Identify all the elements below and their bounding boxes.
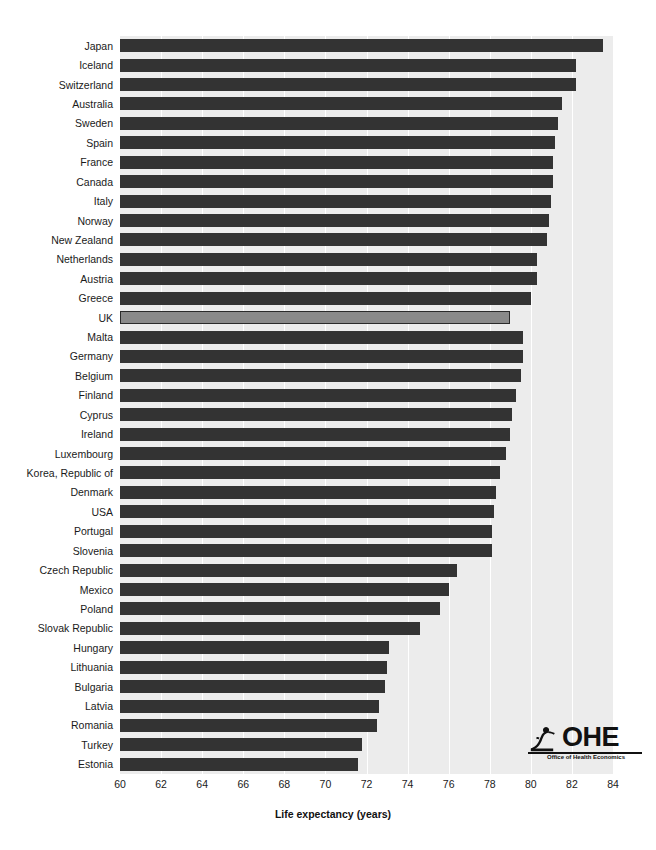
bar [120, 719, 377, 732]
category-label: Sweden [0, 117, 113, 129]
bar-rows: JapanIcelandSwitzerlandAustraliaSwedenSp… [0, 36, 656, 774]
bar [120, 272, 537, 285]
category-label: Bulgaria [0, 681, 113, 693]
bar [120, 544, 492, 557]
category-label: Canada [0, 176, 113, 188]
category-label: Estonia [0, 758, 113, 770]
bar-row: Luxembourg [0, 447, 656, 460]
bar-row: New Zealand [0, 233, 656, 246]
bar-row: Mexico [0, 583, 656, 596]
x-tick-78: 78 [470, 778, 510, 790]
category-label: Lithuania [0, 661, 113, 673]
category-label: Hungary [0, 642, 113, 654]
bar-row: Portugal [0, 525, 656, 538]
bar-row: Ireland [0, 428, 656, 441]
category-label: Korea, Republic of [0, 467, 113, 479]
bar [120, 700, 379, 713]
bar-row: Italy [0, 195, 656, 208]
bar-row: Poland [0, 602, 656, 615]
bar [120, 680, 385, 693]
bar-row: France [0, 156, 656, 169]
bar [120, 97, 562, 110]
bar [120, 758, 358, 771]
bar-row: Korea, Republic of [0, 466, 656, 479]
bar [120, 350, 523, 363]
bar-row: Slovenia [0, 544, 656, 557]
bar [120, 233, 547, 246]
bar-row: USA [0, 505, 656, 518]
bar [120, 175, 553, 188]
category-label: Germany [0, 350, 113, 362]
category-label: Latvia [0, 700, 113, 712]
bar [120, 136, 555, 149]
ohe-wordmark: OHE [562, 722, 619, 752]
category-label: Czech Republic [0, 564, 113, 576]
bar-row: Austria [0, 272, 656, 285]
bar-row: Slovak Republic [0, 622, 656, 635]
x-tick-84: 84 [593, 778, 633, 790]
bar-row: Greece [0, 292, 656, 305]
bar [120, 117, 558, 130]
category-label: France [0, 156, 113, 168]
category-label: Australia [0, 98, 113, 110]
category-label: Iceland [0, 59, 113, 71]
bar-highlighted [120, 311, 510, 324]
bar [120, 389, 516, 402]
category-label: Spain [0, 137, 113, 149]
x-tick-66: 66 [223, 778, 263, 790]
ohe-logo: OHE Office of Health Economics [524, 722, 642, 768]
category-label: Portugal [0, 525, 113, 537]
category-label: New Zealand [0, 234, 113, 246]
x-tick-60: 60 [100, 778, 140, 790]
bar [120, 195, 551, 208]
category-label: Denmark [0, 486, 113, 498]
x-axis-tick-labels: 60626466687072747678808284 [0, 778, 656, 798]
x-tick-74: 74 [388, 778, 428, 790]
bar [120, 466, 500, 479]
bar [120, 78, 576, 91]
category-label: USA [0, 506, 113, 518]
x-tick-62: 62 [141, 778, 181, 790]
category-label: Greece [0, 292, 113, 304]
bar-row: Japan [0, 39, 656, 52]
bar-row: Sweden [0, 117, 656, 130]
bar-row: Belgium [0, 369, 656, 382]
category-label: Italy [0, 195, 113, 207]
x-tick-68: 68 [264, 778, 304, 790]
bar-row: Czech Republic [0, 564, 656, 577]
category-label: Malta [0, 331, 113, 343]
category-label: Poland [0, 603, 113, 615]
bar-row: Latvia [0, 700, 656, 713]
category-label: Finland [0, 389, 113, 401]
category-label: Switzerland [0, 79, 113, 91]
bar [120, 331, 523, 344]
bar-row: Norway [0, 214, 656, 227]
category-label: Belgium [0, 370, 113, 382]
bar-row: Bulgaria [0, 680, 656, 693]
category-label: Slovak Republic [0, 622, 113, 634]
bar [120, 602, 440, 615]
bar-row: UK [0, 311, 656, 324]
category-label: Romania [0, 719, 113, 731]
bar-row: Australia [0, 97, 656, 110]
bar [120, 59, 576, 72]
x-axis-title-text: Life expectancy (years) [275, 808, 391, 820]
x-tick-76: 76 [429, 778, 469, 790]
category-label: Japan [0, 40, 113, 52]
bar-row: Lithuania [0, 661, 656, 674]
bar-row: Finland [0, 389, 656, 402]
bar [120, 369, 521, 382]
category-label: Slovenia [0, 545, 113, 557]
x-tick-82: 82 [552, 778, 592, 790]
bar [120, 641, 389, 654]
bar-row: Malta [0, 331, 656, 344]
bar [120, 428, 510, 441]
category-label: Mexico [0, 584, 113, 596]
bar [120, 486, 496, 499]
bar [120, 214, 549, 227]
bar [120, 622, 420, 635]
bar [120, 253, 537, 266]
category-label: Ireland [0, 428, 113, 440]
life-expectancy-bar-chart: JapanIcelandSwitzerlandAustraliaSwedenSp… [0, 0, 656, 850]
bar-row: Switzerland [0, 78, 656, 91]
